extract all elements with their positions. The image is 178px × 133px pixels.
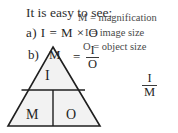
fraction-i-over-m-denominator: M — [142, 85, 157, 99]
legend-magnification: M = magnification — [78, 13, 157, 24]
triangle-cell-top: I — [45, 68, 50, 84]
triangle-cell-bottom-right: O — [66, 107, 76, 123]
magnification-triangle-figure: It is easy to see: M = magnification I =… — [0, 0, 178, 133]
fraction-i-over-m-numerator: I — [142, 72, 157, 85]
fraction-i-over-m: I M — [142, 72, 157, 99]
equation-b-symbol: M — [49, 48, 61, 61]
equation-a: a) I = M × O — [26, 26, 98, 39]
triangle-cell-bottom-left: M — [26, 107, 38, 123]
